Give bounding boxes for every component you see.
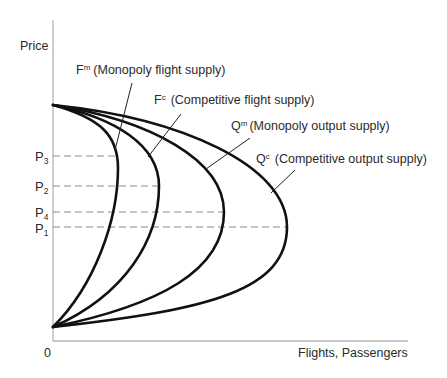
label-fm: Fm(Monopoly flight supply) xyxy=(76,63,225,77)
supply-curves-diagram: Price Flights, Passengers 0 P3 P2 P4 P1 … xyxy=(0,0,447,378)
x-axis-label: Flights, Passengers xyxy=(298,346,408,360)
price-label-p3: P3 xyxy=(35,149,49,166)
curve-fc xyxy=(53,105,159,327)
leader-qm xyxy=(206,138,250,169)
label-qm: Qm(Monopoly output supply) xyxy=(231,119,390,133)
label-qc: Qc(Competitive output supply) xyxy=(256,152,427,166)
price-label-p2: P2 xyxy=(35,179,49,196)
price-label-p4: P4 xyxy=(35,205,49,222)
y-axis-label: Price xyxy=(20,39,49,53)
origin-label: 0 xyxy=(44,346,51,360)
label-fc: Fc(Competitive flight supply) xyxy=(154,93,314,107)
leader-fc xyxy=(148,114,181,157)
curve-qc xyxy=(53,105,287,327)
price-label-p1: P1 xyxy=(35,221,49,238)
leader-qc xyxy=(271,170,295,193)
